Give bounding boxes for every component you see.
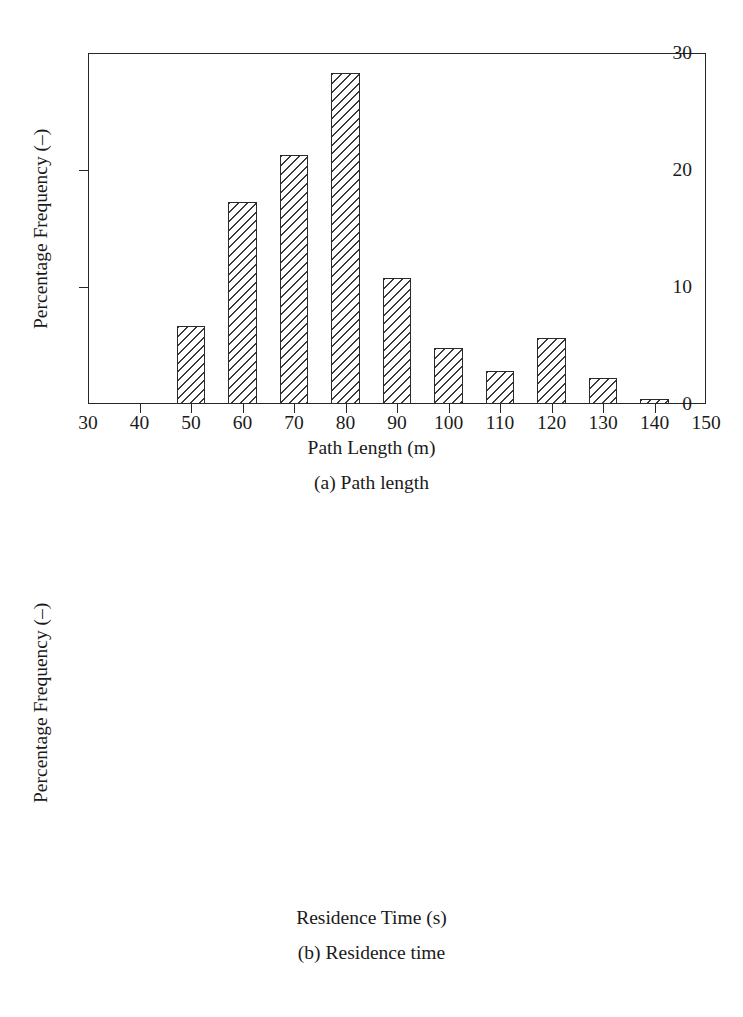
x-tick-label-a-70: 70 [284,413,304,433]
y-tick-label-a-20: 20 [673,160,693,180]
y-tick-label-a-30: 30 [673,43,693,63]
bar-a-70 [280,155,308,404]
x-tick-label-a-90: 90 [387,413,407,433]
bar-a-130 [589,378,617,404]
x-tick-label-a-110: 110 [486,413,515,433]
y-tick-label-a-10: 10 [673,277,693,297]
x-tick-label-a-100: 100 [434,413,463,433]
y-tick-a-20 [79,170,88,171]
x-tick-label-a-150: 150 [691,413,720,433]
bar-a-60 [228,202,256,404]
x-axis-title-a: Path Length (m) [0,437,743,459]
y-axis-title-a: Percentage Frequency (–) [30,128,52,328]
panel-caption-b: (b) Residence time [0,942,743,964]
bar-series-path-length [88,53,706,404]
bar-a-80 [331,73,359,404]
plot-area-path-length: 0102030 30405060708090100110120130140150 [88,53,706,404]
x-tick-label-a-50: 50 [181,413,201,433]
x-tick-label-a-30: 30 [78,413,98,433]
x-tick-label-a-120: 120 [537,413,566,433]
y-tick-a-10 [79,287,88,288]
x-tick-label-a-130: 130 [588,413,617,433]
bar-a-90 [383,278,411,404]
bar-a-110 [486,371,514,404]
bar-a-100 [434,348,462,404]
panel-path-length: Percentage Frequency (–) 0102030 3040506… [0,0,743,500]
x-tick-label-a-60: 60 [233,413,253,433]
x-tick-label-a-40: 40 [130,413,150,433]
y-tick-label-a-0: 0 [682,394,692,414]
x-axis-title-b: Residence Time (s) [0,907,743,929]
x-tick-label-a-140: 140 [640,413,669,433]
y-axis-title-b: Percentage Frequency (–) [30,602,52,802]
panel-residence-time: Percentage Frequency (–) 010203040 36912… [0,500,743,1017]
x-tick-label-a-80: 80 [336,413,356,433]
figure-two-histograms: Percentage Frequency (–) 0102030 3040506… [0,0,743,1017]
bar-a-50 [177,326,205,404]
bar-a-120 [537,338,565,404]
panel-caption-a: (a) Path length [0,472,743,494]
